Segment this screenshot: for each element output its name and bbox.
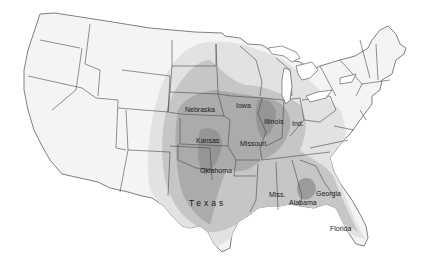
label-illinois: Illinois	[264, 118, 284, 125]
label-oklahoma: Oklahoma	[200, 167, 232, 174]
label-georgia: Georgia	[316, 190, 341, 198]
label-nebraska: Nebraska	[185, 106, 215, 113]
label-florida: Florida	[330, 225, 352, 232]
label-missouri: Missouri	[240, 140, 267, 147]
label-indiana: Ind.	[292, 120, 304, 127]
us-choropleth-map: Nebraska Iowa Illinois Ind. Kansas Misso…	[0, 0, 434, 277]
label-alabama: Alabama	[289, 199, 317, 206]
label-texas: Texas	[189, 198, 226, 208]
label-mississippi: Miss.	[269, 191, 285, 198]
label-iowa: Iowa	[236, 102, 251, 109]
label-kansas: Kansas	[196, 137, 220, 144]
